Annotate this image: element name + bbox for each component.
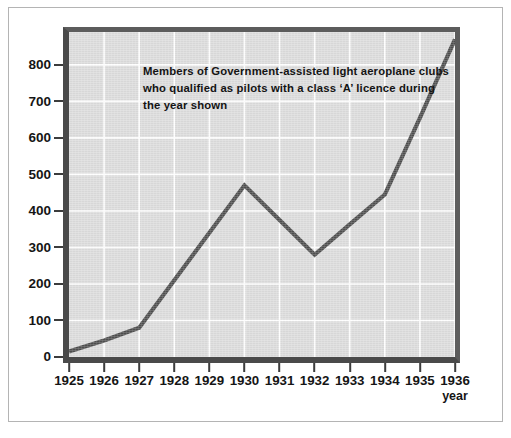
x-axis-tick-mark — [173, 363, 175, 372]
x-axis-tick-label: 1935 — [405, 374, 435, 387]
x-axis-tick: 1925 — [54, 363, 84, 387]
x-axis-tick-mark — [208, 363, 210, 372]
x-axis-title: year — [442, 390, 468, 403]
x-axis-tick-label: 1927 — [124, 374, 154, 387]
y-axis-tick-mark — [54, 137, 63, 139]
x-axis-tick-mark — [314, 363, 316, 372]
plot-wrapper: Members of Government-assisted light aer… — [63, 27, 460, 363]
y-axis-tick-mark — [54, 356, 63, 358]
x-axis-tick: 1935 — [405, 363, 435, 387]
y-axis-tick-mark — [54, 283, 63, 285]
x-axis-tick-mark — [349, 363, 351, 372]
chart-title: Members of Government-assisted light aer… — [143, 63, 473, 114]
x-axis: year 19251926192719281929193019311932193… — [63, 363, 460, 403]
x-axis-tick-mark — [243, 363, 245, 372]
x-axis-tick: 1930 — [230, 363, 260, 387]
x-axis-tick-label: 1932 — [300, 374, 330, 387]
y-axis-tick-label: 500 — [28, 168, 51, 182]
x-axis-tick-mark — [454, 363, 456, 372]
x-axis-tick: 1927 — [124, 363, 154, 387]
x-axis-tick-label: 1926 — [89, 374, 119, 387]
x-axis-tick: 1929 — [195, 363, 225, 387]
y-axis-tick-label: 300 — [28, 241, 51, 255]
x-axis-tick-label: 1925 — [54, 374, 84, 387]
x-axis-tick-label: 1931 — [265, 374, 295, 387]
x-axis-tick: 1931 — [265, 363, 295, 387]
x-axis-tick-mark — [384, 363, 386, 372]
x-axis-tick-mark — [103, 363, 105, 372]
x-axis-tick-label: 1934 — [370, 374, 400, 387]
y-axis-tick-mark — [54, 319, 63, 321]
y-axis-tick-mark — [54, 210, 63, 212]
y-axis-tick-label: 600 — [28, 131, 51, 145]
x-axis-tick-mark — [279, 363, 281, 372]
x-axis-tick-label: 1930 — [230, 374, 260, 387]
x-axis-tick-label: 1928 — [159, 374, 189, 387]
x-axis-tick-label: 1929 — [195, 374, 225, 387]
x-axis-tick-mark — [419, 363, 421, 372]
y-axis-tick-label: 400 — [28, 204, 51, 218]
x-axis-tick-label: 1936 — [440, 374, 470, 387]
y-axis-tick-label: 800 — [28, 58, 51, 72]
x-axis-tick-label: 1933 — [335, 374, 365, 387]
y-axis-tick-mark — [54, 64, 63, 66]
x-axis-tick: 1926 — [89, 363, 119, 387]
y-axis-tick-label: 700 — [28, 95, 51, 109]
x-axis-tick: 1928 — [159, 363, 189, 387]
x-axis-tick-mark — [68, 363, 70, 372]
x-axis-tick: 1936 — [440, 363, 470, 387]
y-axis-tick-label: 0 — [43, 350, 51, 364]
y-axis: 0100200300400500600700800 — [0, 27, 63, 363]
y-axis-tick-mark — [54, 246, 63, 248]
y-axis-tick-label: 200 — [28, 277, 51, 291]
x-axis-tick: 1932 — [300, 363, 330, 387]
y-axis-tick-mark — [54, 173, 63, 175]
x-axis-tick: 1934 — [370, 363, 400, 387]
y-axis-tick-mark — [54, 100, 63, 102]
x-axis-tick: 1933 — [335, 363, 365, 387]
y-axis-tick-label: 100 — [28, 314, 51, 328]
x-axis-tick-mark — [138, 363, 140, 372]
chart-figure: Members of Government-assisted light aer… — [0, 0, 511, 438]
